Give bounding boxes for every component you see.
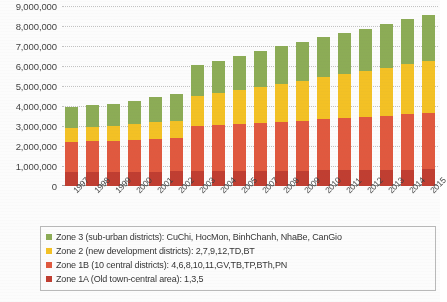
y-axis: 9,000,0008,000,0007,000,0006,000,0005,00… bbox=[0, 0, 60, 186]
bar-segment bbox=[128, 124, 141, 140]
bar-segment bbox=[254, 123, 267, 171]
bar-column bbox=[422, 15, 435, 186]
bar-segment bbox=[86, 105, 99, 127]
bar-segment bbox=[317, 119, 330, 170]
bar-column bbox=[317, 37, 330, 186]
bar-column bbox=[296, 42, 309, 186]
bars-layer bbox=[62, 6, 438, 186]
bar-segment bbox=[296, 42, 309, 81]
bar-segment bbox=[338, 74, 351, 118]
bar-segment bbox=[86, 141, 99, 172]
bar-segment bbox=[170, 121, 183, 138]
y-axis-tick-label: 1,000,000 bbox=[16, 161, 57, 172]
bar-segment bbox=[233, 90, 246, 124]
bar-segment bbox=[317, 77, 330, 119]
bar-segment bbox=[65, 128, 78, 142]
bar-segment bbox=[422, 15, 435, 61]
y-axis-tick-label: 4,000,000 bbox=[16, 101, 57, 112]
plot-area bbox=[62, 6, 438, 186]
bar-segment bbox=[191, 65, 204, 96]
chart-legend: Zone 3 (sub-urban districts): CuChi, Hoc… bbox=[40, 226, 436, 291]
legend-swatch-zone3 bbox=[46, 234, 52, 240]
bar-segment bbox=[65, 107, 78, 128]
bar-column bbox=[254, 51, 267, 186]
bar-segment bbox=[233, 56, 246, 90]
bar-segment bbox=[65, 142, 78, 172]
bar-column bbox=[191, 65, 204, 186]
y-axis-tick-label: 5,000,000 bbox=[16, 81, 57, 92]
legend-item-label: Zone 2 (new development districts): 2,7,… bbox=[56, 246, 255, 256]
legend-swatch-zone1b bbox=[46, 262, 52, 268]
legend-item: Zone 3 (sub-urban districts): CuChi, Hoc… bbox=[46, 230, 431, 244]
bar-column bbox=[149, 97, 162, 186]
bar-column bbox=[275, 46, 288, 186]
bar-segment bbox=[212, 61, 225, 93]
bar-segment bbox=[170, 94, 183, 121]
bar-segment bbox=[107, 126, 120, 141]
bar-segment bbox=[212, 93, 225, 125]
bar-segment bbox=[191, 126, 204, 171]
bar-segment bbox=[128, 101, 141, 124]
bar-segment bbox=[254, 87, 267, 123]
y-axis-tick-label: 0 bbox=[52, 181, 57, 192]
bar-segment bbox=[338, 118, 351, 170]
bar-segment bbox=[422, 61, 435, 113]
bar-segment bbox=[401, 114, 414, 169]
bar-segment bbox=[86, 127, 99, 141]
bar-segment bbox=[338, 33, 351, 74]
bar-segment bbox=[296, 81, 309, 121]
bar-segment bbox=[191, 96, 204, 126]
legend-item: Zone 2 (new development districts): 2,7,… bbox=[46, 244, 431, 258]
y-axis-tick-label: 6,000,000 bbox=[16, 61, 57, 72]
legend-item-label: Zone 1A (Old town-central area): 1,3,5 bbox=[56, 274, 203, 284]
legend-swatch-zone2 bbox=[46, 248, 52, 254]
bar-column bbox=[86, 105, 99, 186]
y-axis-tick-label: 2,000,000 bbox=[16, 141, 57, 152]
bar-segment bbox=[380, 116, 393, 170]
bar-segment bbox=[380, 68, 393, 116]
bar-segment bbox=[149, 139, 162, 172]
bar-column bbox=[65, 107, 78, 186]
bar-segment bbox=[233, 124, 246, 171]
x-axis: 1997199819992000200120022003200420052007… bbox=[62, 186, 438, 226]
bar-segment bbox=[317, 37, 330, 77]
y-axis-tick-label: 7,000,000 bbox=[16, 41, 57, 52]
bar-segment bbox=[107, 104, 120, 126]
bar-column bbox=[401, 19, 414, 186]
legend-swatch-zone1a bbox=[46, 276, 52, 282]
bar-segment bbox=[275, 46, 288, 84]
bar-segment bbox=[275, 122, 288, 171]
bar-column bbox=[338, 33, 351, 186]
bar-column bbox=[212, 61, 225, 186]
y-axis-tick-label: 9,000,000 bbox=[16, 1, 57, 12]
bar-segment bbox=[254, 51, 267, 87]
bar-segment bbox=[422, 113, 435, 169]
y-axis-tick-label: 8,000,000 bbox=[16, 21, 57, 32]
legend-item: Zone 1B (10 central districts): 4,6,8,10… bbox=[46, 258, 431, 272]
bar-column bbox=[359, 29, 372, 186]
bar-segment bbox=[275, 84, 288, 122]
bar-segment bbox=[359, 71, 372, 117]
bar-segment bbox=[359, 29, 372, 71]
bar-segment bbox=[107, 141, 120, 172]
bar-segment bbox=[296, 121, 309, 171]
bar-column bbox=[107, 104, 120, 186]
legend-item: Zone 1A (Old town-central area): 1,3,5 bbox=[46, 272, 431, 286]
bar-segment bbox=[401, 19, 414, 64]
bar-segment bbox=[170, 138, 183, 172]
y-axis-tick-label: 3,000,000 bbox=[16, 121, 57, 132]
bar-segment bbox=[149, 122, 162, 138]
legend-item-label: Zone 1B (10 central districts): 4,6,8,10… bbox=[56, 260, 287, 270]
legend-item-label: Zone 3 (sub-urban districts): CuChi, Hoc… bbox=[56, 232, 342, 242]
bar-column bbox=[170, 94, 183, 186]
bar-segment bbox=[212, 125, 225, 171]
bar-segment bbox=[128, 140, 141, 172]
bar-column bbox=[128, 101, 141, 186]
bar-segment bbox=[149, 97, 162, 122]
bar-segment bbox=[380, 24, 393, 68]
bar-column bbox=[380, 24, 393, 186]
bar-segment bbox=[359, 117, 372, 170]
bar-column bbox=[233, 56, 246, 186]
bar-segment bbox=[401, 64, 414, 114]
